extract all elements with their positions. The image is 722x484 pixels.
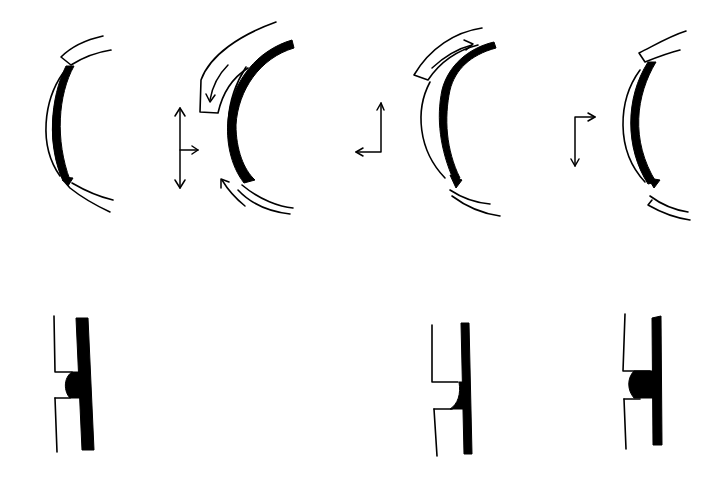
diagram-canvas (0, 0, 722, 484)
axes-indicator-3 (571, 113, 595, 166)
arc-figure-4 (623, 31, 690, 220)
section-detail-3 (623, 314, 662, 449)
arc-figure-1 (46, 36, 113, 212)
section-detail-2 (432, 323, 472, 456)
axes-indicator-1 (175, 108, 198, 188)
arc-figure-3 (414, 28, 500, 216)
section-detail-1 (54, 316, 94, 452)
axes-indicator-2 (356, 103, 384, 156)
arc-figure-2 (200, 22, 294, 214)
